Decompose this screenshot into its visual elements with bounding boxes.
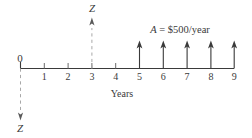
- cash-flow-svg: [0, 0, 252, 138]
- tick-label-year-4: 4: [113, 72, 118, 82]
- tick-label-year-7: 7: [185, 72, 190, 82]
- cash-flow-arrow-year-5: [137, 41, 143, 69]
- tick-label-year-6: 6: [161, 72, 166, 82]
- cash-flow-arrow-year-7: [184, 41, 190, 69]
- axis-label-years: Years: [111, 89, 133, 99]
- cash-flow-figure: 0 1 2 3 4 5 6 7 8 9 Years A = $500/year …: [0, 0, 252, 138]
- z-bottom-label: Z: [17, 123, 23, 134]
- tick-label-year-5: 5: [137, 72, 142, 82]
- z-down-dashed-line: [18, 69, 23, 121]
- z-up-dashed-line: [89, 18, 94, 69]
- tick-label-year-9: 9: [232, 72, 237, 82]
- cash-flow-arrow-year-9: [231, 41, 237, 69]
- tick-label-year-2: 2: [66, 72, 71, 82]
- z-top-label: Z: [89, 3, 95, 14]
- annuity-value: = $500/year: [157, 24, 210, 35]
- tick-label-year-1: 1: [42, 72, 47, 82]
- origin-label: 0: [17, 53, 23, 64]
- cash-flow-arrow-year-8: [208, 41, 214, 69]
- tick-label-year-3: 3: [89, 72, 94, 82]
- tick-label-year-8: 8: [208, 72, 213, 82]
- annuity-annotation: A = $500/year: [150, 25, 210, 36]
- cash-flow-arrow-year-6: [160, 41, 166, 69]
